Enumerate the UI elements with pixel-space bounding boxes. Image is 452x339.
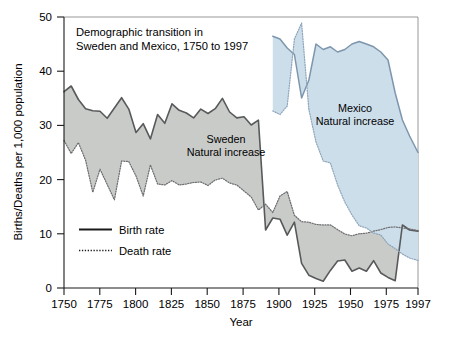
y-tick-label-50: 50 — [39, 11, 52, 23]
x-tick-label-1875: 1875 — [230, 298, 256, 310]
y-axis-title: Births/Deaths per 1,000 population — [12, 63, 24, 240]
chart-figure: 0 10 20 30 40 50 1750 1775 1800 1825 — [0, 0, 452, 339]
y-tick-label-0: 0 — [46, 282, 52, 294]
mexico-label-line2: Natural increase — [316, 115, 395, 127]
x-tick-label-1850: 1850 — [194, 298, 220, 310]
x-tick-label-1800: 1800 — [123, 298, 149, 310]
y-tick-label-30: 30 — [39, 119, 52, 131]
mexico-label-line1: Mexico — [338, 102, 372, 114]
y-axis-tick-labels: 0 10 20 30 40 50 — [39, 11, 52, 294]
x-axis-title: Year — [229, 316, 252, 328]
sweden-label-line1: Sweden — [206, 133, 245, 145]
y-tick-label-40: 40 — [39, 65, 52, 77]
x-tick-label-1950: 1950 — [338, 298, 364, 310]
y-axis-ticks — [57, 17, 64, 288]
x-tick-label-1997: 1997 — [405, 298, 431, 310]
x-tick-label-1900: 1900 — [266, 298, 292, 310]
legend-death-label: Death rate — [119, 245, 171, 257]
x-tick-label-1750: 1750 — [51, 298, 77, 310]
legend-birth-label: Birth rate — [119, 224, 164, 236]
x-axis-tick-labels: 1750 1775 1800 1825 1850 1875 1900 1925 … — [51, 298, 431, 310]
x-tick-label-1925: 1925 — [302, 298, 328, 310]
sweden-label-line2: Natural increase — [187, 146, 266, 158]
x-tick-label-1975: 1975 — [374, 298, 400, 310]
x-tick-label-1825: 1825 — [159, 298, 185, 310]
y-tick-label-10: 10 — [39, 228, 52, 240]
chart-title-line2: Sweden and Mexico, 1750 to 1997 — [76, 40, 248, 52]
y-tick-label-20: 20 — [39, 174, 52, 186]
x-axis-ticks — [64, 288, 418, 295]
x-tick-label-1775: 1775 — [87, 298, 113, 310]
demographic-transition-chart: 0 10 20 30 40 50 1750 1775 1800 1825 — [0, 0, 452, 339]
chart-title-line1: Demographic transition in — [76, 26, 203, 38]
